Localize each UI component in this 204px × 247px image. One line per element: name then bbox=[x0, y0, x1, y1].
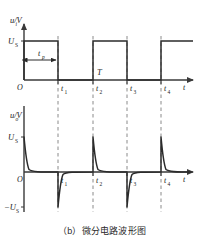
top-plot: u/V i U S O t p T t t t t t 1 2 3 4 bbox=[8, 15, 193, 95]
figure-caption: （b）微分电路波形图 bbox=[0, 224, 204, 237]
bottom-origin-label: O bbox=[17, 175, 23, 184]
bottom-tick-sub-t2: 2 bbox=[100, 181, 103, 187]
bottom-tick-label-subs: 1 2 3 4 bbox=[65, 181, 171, 187]
bottom-neg-amplitude-label: −U bbox=[4, 202, 17, 212]
top-tick-sub-t2: 2 bbox=[100, 89, 103, 95]
bottom-amplitude-label: U bbox=[8, 132, 15, 142]
top-origin-label: O bbox=[17, 83, 23, 92]
top-amplitude-label: U bbox=[8, 36, 15, 46]
pulse-width-label: t bbox=[38, 49, 41, 58]
top-amplitude-label-sub: S bbox=[15, 42, 18, 48]
bottom-tick-sub-t1: 1 bbox=[65, 181, 68, 187]
bottom-tick-sub-t4: 4 bbox=[168, 181, 171, 187]
top-tick-sub-t3: 3 bbox=[134, 89, 137, 95]
bottom-amplitude-label-sub: S bbox=[15, 138, 18, 144]
bottom-tick-labels: t t t t bbox=[61, 176, 167, 185]
top-tick-label-subs: 1 2 3 4 bbox=[65, 89, 171, 95]
pulse-width-label-sub: p bbox=[41, 54, 45, 60]
top-x-axis-label: t bbox=[183, 83, 186, 92]
bottom-neg-amplitude-label-sub: S bbox=[16, 208, 19, 214]
waveform-svg: u/V i U S O t p T t t t t t 1 2 3 4 bbox=[0, 0, 204, 247]
dashed-guide-lines bbox=[58, 36, 161, 212]
bottom-y-axis-label-sub: o bbox=[16, 116, 19, 122]
bottom-x-axis-label: t bbox=[183, 175, 186, 184]
bottom-tick-sub-t3: 3 bbox=[134, 181, 137, 187]
top-tick-sub-t4: 4 bbox=[168, 89, 171, 95]
bottom-plot: u/V o U S −U S O t t t t t 1 2 3 4 bbox=[4, 106, 193, 214]
period-label: T bbox=[97, 67, 103, 77]
waveform-figure: u/V i U S O t p T t t t t t 1 2 3 4 bbox=[0, 0, 204, 247]
top-tick-sub-t1: 1 bbox=[65, 89, 68, 95]
top-tick-labels: t t t t bbox=[61, 84, 167, 93]
